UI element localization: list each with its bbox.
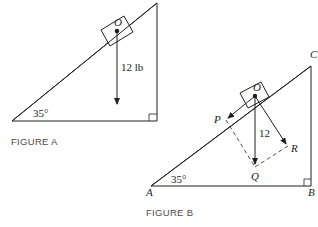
right-angle-marker-b xyxy=(304,179,311,186)
label-r: R xyxy=(290,142,298,154)
label-o-b: O xyxy=(253,81,261,93)
label-o-a: O xyxy=(114,16,122,28)
label-force-b: 12 xyxy=(259,127,270,139)
label-q: Q xyxy=(251,170,259,182)
dashed-p-q xyxy=(226,120,255,167)
caption-a: FIGURE A xyxy=(11,136,58,147)
label-angle-a: 35° xyxy=(33,107,48,119)
label-c: C xyxy=(310,48,318,60)
right-angle-marker-a xyxy=(149,114,157,121)
diagram-canvas: O 12 lb 35° FIGURE A O P R Q 12 35° A B … xyxy=(0,0,318,227)
label-force-a: 12 lb xyxy=(121,61,144,73)
caption-b: FIGURE B xyxy=(146,207,193,218)
label-angle-b: 35° xyxy=(171,173,186,185)
label-a: A xyxy=(145,186,153,198)
label-b: B xyxy=(308,186,315,198)
figure-a: O 12 lb 35° FIGURE A xyxy=(11,3,157,147)
dashed-r-q xyxy=(255,146,288,167)
label-p: P xyxy=(213,113,221,125)
figure-b: O P R Q 12 35° A B C FIGURE B xyxy=(145,48,318,218)
